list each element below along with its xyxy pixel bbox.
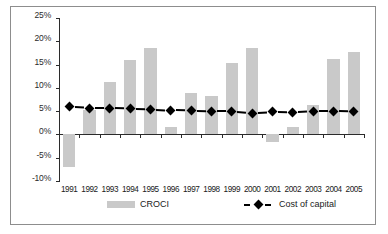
y-tick-label: 10% (35, 81, 51, 90)
bar-2005 (348, 52, 360, 135)
x-tick-mark (222, 134, 223, 138)
bar-1993 (104, 82, 116, 134)
bar-1999 (226, 63, 238, 134)
x-tick-mark (262, 134, 263, 138)
x-tick-mark (344, 134, 345, 138)
legend-swatch-croci (107, 201, 135, 208)
legend-label-cost-of-capital: Cost of capital (279, 199, 336, 209)
x-tick-label-1998: 1998 (201, 185, 221, 194)
x-tick-mark (364, 134, 365, 138)
x-tick-label-2004: 2004 (323, 185, 343, 194)
legend-item-croci: CROCI (107, 198, 169, 210)
x-tick-mark (79, 134, 80, 138)
chart-legend: CROCI Cost of capital (11, 198, 375, 210)
x-tick-label-2000: 2000 (242, 185, 262, 194)
x-tick-mark (201, 134, 202, 138)
bar-1998 (205, 96, 217, 135)
bar-2002 (287, 127, 299, 135)
x-tick-mark (140, 134, 141, 138)
y-tick-mark (56, 88, 60, 89)
x-tick-label-1995: 1995 (140, 185, 160, 194)
y-tick-label: 20% (35, 34, 51, 43)
x-tick-mark (120, 134, 121, 138)
x-axis-zero-line (59, 134, 364, 135)
y-tick-label: -5% (36, 151, 51, 160)
x-tick-mark (242, 134, 243, 138)
bar-1996 (165, 127, 177, 135)
x-tick-label-1994: 1994 (120, 185, 140, 194)
x-tick-mark (161, 134, 162, 138)
bar-2003 (307, 105, 319, 134)
x-tick-label-2002: 2002 (283, 185, 303, 194)
legend-label-croci: CROCI (140, 199, 169, 209)
y-tick-label: 25% (35, 11, 51, 20)
x-tick-label-2003: 2003 (303, 185, 323, 194)
y-tick-label: -10% (32, 174, 51, 183)
x-tick-mark (59, 134, 60, 138)
bar-2004 (327, 59, 339, 135)
x-tick-label-1999: 1999 (222, 185, 242, 194)
bar-2000 (246, 48, 258, 135)
bar-1994 (124, 60, 136, 135)
bar-1995 (144, 48, 156, 135)
x-tick-mark (283, 134, 284, 138)
bar-2001 (266, 134, 278, 142)
chart-figure: 25%20%15%10%5%0%-5%-10% 1991199219931994… (10, 6, 376, 225)
x-tick-label-1991: 1991 (59, 185, 79, 194)
bar-1997 (185, 93, 197, 135)
x-tick-label-1993: 1993 (100, 185, 120, 194)
y-axis-line (59, 18, 60, 181)
x-tick-mark (100, 134, 101, 138)
y-tick-mark (56, 65, 60, 66)
legend-swatch-cost-of-capital (244, 200, 274, 209)
x-tick-mark (181, 134, 182, 138)
y-tick-mark (56, 111, 60, 112)
x-tick-mark (303, 134, 304, 138)
y-tick-mark (56, 158, 60, 159)
y-tick-label: 0% (39, 127, 51, 136)
y-tick-label: 5% (39, 104, 51, 113)
x-tick-label-1996: 1996 (161, 185, 181, 194)
y-tick-mark (56, 18, 60, 19)
x-tick-label-1997: 1997 (181, 185, 201, 194)
x-tick-label-1992: 1992 (79, 185, 99, 194)
legend-item-cost-of-capital: Cost of capital (244, 198, 336, 210)
diamond-marker-icon (254, 200, 264, 210)
y-tick-mark (56, 181, 60, 182)
bar-1991 (63, 134, 75, 167)
y-tick-mark (56, 41, 60, 42)
x-tick-label-2001: 2001 (262, 185, 282, 194)
x-tick-label-2005: 2005 (344, 185, 364, 194)
x-tick-mark (323, 134, 324, 138)
y-tick-label: 15% (35, 58, 51, 67)
bar-1992 (83, 110, 95, 135)
